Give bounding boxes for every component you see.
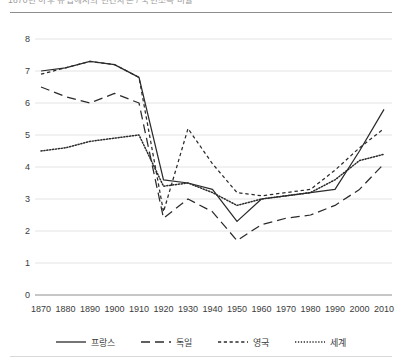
legend-label-france: 프랑스 (91, 336, 115, 349)
legend-label-uk: 영국 (253, 336, 269, 349)
series-line-1 (41, 87, 384, 241)
x-axis-tick-label: 1980 (300, 304, 320, 314)
series-line-3 (41, 135, 384, 205)
legend-swatch-uk (218, 338, 248, 346)
x-axis-tick-label: 1880 (55, 304, 75, 314)
legend-swatch-france (56, 338, 86, 346)
x-axis-tick-label: 1970 (276, 304, 296, 314)
x-axis-tick-label: 2010 (374, 304, 394, 314)
y-axis-tick-label: 5 (25, 130, 30, 140)
y-axis-tick-label: 1 (25, 258, 30, 268)
x-axis-tick-label: 1990 (325, 304, 345, 314)
legend-item-uk: 영국 (218, 336, 269, 349)
x-axis-tick-label: 2000 (349, 304, 369, 314)
x-axis-tick-label: 1870 (31, 304, 51, 314)
y-axis-tick-label: 8 (25, 34, 30, 44)
legend-label-world: 세계 (330, 336, 346, 349)
legend-swatch-world (295, 338, 325, 346)
y-axis-tick-label: 0 (25, 290, 30, 300)
x-axis-tick-label: 1890 (80, 304, 100, 314)
y-axis-tick-label: 3 (25, 194, 30, 204)
x-axis-tick-label: 1910 (129, 304, 149, 314)
legend-item-germany: 독일 (141, 336, 192, 349)
y-axis-tick-label: 4 (25, 162, 30, 172)
x-axis-tick-label: 1940 (202, 304, 222, 314)
legend-swatch-germany (141, 338, 171, 346)
legend-item-france: 프랑스 (56, 336, 115, 349)
y-axis-tick-label: 7 (25, 66, 30, 76)
legend-divider (10, 356, 392, 357)
chart-figure: 1870년 이후 유럽에서의 민간자본 / 국민소득 비율 0123456781… (0, 0, 402, 361)
legend-label-germany: 독일 (176, 336, 192, 349)
x-axis-tick-label: 1930 (178, 304, 198, 314)
x-axis-tick-label: 1960 (251, 304, 271, 314)
y-axis-tick-label: 6 (25, 98, 30, 108)
x-axis-tick-label: 1920 (153, 304, 173, 314)
x-axis-tick-label: 1950 (227, 304, 247, 314)
legend-item-world: 세계 (295, 336, 346, 349)
line-chart-plot: 0123456781870188018901900191019201930194… (0, 0, 402, 330)
y-axis-tick-label: 2 (25, 226, 30, 236)
chart-legend: 프랑스 독일 영국 세계 (0, 330, 402, 354)
x-axis-tick-label: 1900 (104, 304, 124, 314)
